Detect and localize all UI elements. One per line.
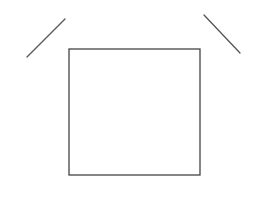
left-diagonal-line [27,19,65,57]
diagram-canvas [0,0,253,200]
diagram-svg [0,0,253,200]
square-box [69,49,200,175]
right-diagonal-line [204,15,240,53]
